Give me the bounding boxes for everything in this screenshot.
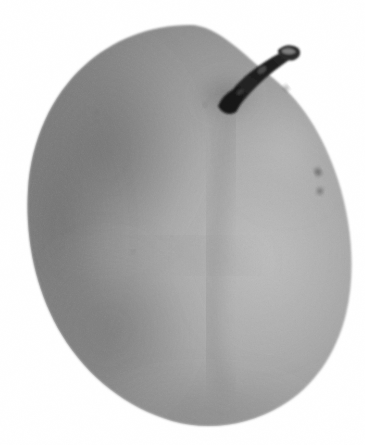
global-film-grain <box>0 0 365 445</box>
photo-canvas: Grayscale photograph of a pear with a da… <box>0 0 365 445</box>
fruit-photograph <box>0 0 365 445</box>
